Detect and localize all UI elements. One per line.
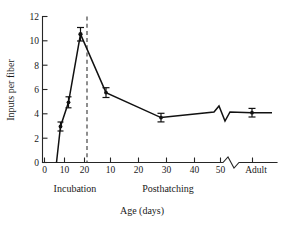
x-tick-label-inc-20: 20	[80, 165, 90, 175]
figure-container: 12 10 8 6 4 2 0 Inputs per fiber	[0, 0, 284, 227]
y-tick-label-2: 2	[34, 134, 39, 144]
x-axis-line-with-break	[43, 157, 278, 168]
data-marker	[78, 32, 82, 36]
y-tick-label-4: 4	[34, 109, 39, 119]
data-marker	[104, 91, 108, 95]
x-group-label-incubation: Incubation	[54, 183, 97, 194]
x-axis-title: Age (days)	[120, 205, 164, 217]
y-axis-group: 12 10 8 6 4 2 0 Inputs per fiber	[5, 12, 48, 168]
x-axis-group: 0 10 20 10 20 30 40 50 Adult Incubation …	[42, 157, 277, 217]
data-point-incubation-8d	[58, 122, 64, 131]
data-marker	[67, 100, 71, 104]
data-marker	[59, 125, 63, 129]
y-tick-label-6: 6	[34, 85, 39, 95]
y-axis-title: Inputs per fiber	[5, 59, 16, 121]
data-marker	[250, 111, 254, 115]
y-tick-label-0: 0	[34, 158, 39, 168]
x-tick-label-post-40: 40	[190, 165, 200, 175]
data-line-path	[57, 34, 273, 162]
x-tick-label-inc-0: 0	[42, 165, 47, 175]
x-tick-label-post-30: 30	[162, 165, 172, 175]
x-tick-label-post-10: 10	[106, 165, 116, 175]
y-tick-label-8: 8	[34, 61, 39, 71]
data-marker	[159, 116, 163, 120]
chart-canvas: 12 10 8 6 4 2 0 Inputs per fiber	[0, 0, 284, 227]
data-series-inputs-per-fiber	[57, 28, 273, 163]
data-point-incubation-12d	[66, 97, 72, 108]
y-tick-label-10: 10	[30, 36, 40, 46]
y-tick-label-12: 12	[30, 12, 40, 22]
x-group-label-posthatching: Posthatching	[142, 183, 194, 194]
x-tick-label-post-20: 20	[134, 165, 144, 175]
data-point-posthatching-8d	[103, 88, 110, 98]
x-tick-label-adult: Adult	[245, 165, 267, 175]
x-tick-label-inc-10: 10	[60, 165, 70, 175]
x-tick-label-post-50: 50	[216, 165, 226, 175]
